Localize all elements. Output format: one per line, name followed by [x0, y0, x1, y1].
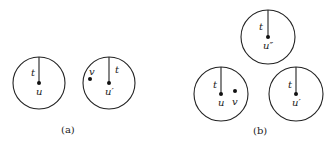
- radius-label: t: [115, 64, 120, 75]
- radius-label: t: [259, 21, 264, 32]
- center-point: [266, 35, 270, 39]
- disk-u: t u: [13, 57, 65, 109]
- disk-u-prime: t u′: [269, 67, 323, 121]
- disk-u: v t u: [194, 67, 248, 121]
- disk-u-prime: v t u′: [83, 57, 135, 109]
- point-v-label: v: [232, 96, 238, 107]
- radius-label: t: [213, 79, 218, 90]
- radius-label: t: [31, 67, 36, 78]
- center-label: u: [218, 97, 224, 108]
- center-label: u: [36, 86, 42, 97]
- panel-b: t u″ v t u t u′ (b): [194, 10, 323, 136]
- disk-u-double-prime: t u″: [241, 10, 295, 64]
- diagram-canvas: t u v t u′ (a) t u″ v: [0, 0, 334, 147]
- point-v: [233, 89, 237, 93]
- center-label: u″: [263, 40, 273, 51]
- center-point: [294, 92, 298, 96]
- center-point: [107, 81, 111, 85]
- center-point: [219, 92, 223, 96]
- point-v-label: v: [89, 66, 95, 77]
- caption-a: (a): [61, 124, 75, 135]
- center-label: u′: [292, 97, 301, 108]
- panel-a: t u v t u′ (a): [13, 57, 135, 135]
- center-label: u′: [105, 86, 114, 97]
- caption-b: (b): [253, 125, 267, 136]
- radius-label: t: [288, 79, 293, 90]
- point-v: [88, 77, 92, 81]
- center-point: [37, 81, 41, 85]
